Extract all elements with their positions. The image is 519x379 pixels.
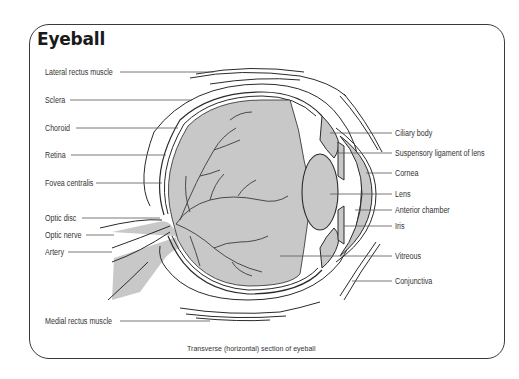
label-fovea-centralis: Fovea centralis: [45, 178, 93, 188]
label-anterior-chamber: Anterior chamber: [395, 205, 450, 215]
vitreous-shape: [168, 100, 309, 286]
ciliary-body-bottom: [320, 228, 339, 268]
ciliary-body-top: [320, 116, 339, 158]
diagram-caption: Transverse (horizontal) section of eyeba…: [187, 344, 315, 353]
label-lateral-rectus-muscle: Lateral rectus muscle: [45, 67, 113, 77]
label-conjunctiva: Conjunctiva: [395, 276, 432, 286]
label-medial-rectus-muscle: Medial rectus muscle: [45, 316, 112, 326]
label-optic-nerve: Optic nerve: [45, 230, 81, 240]
label-choroid: Choroid: [45, 123, 70, 133]
label-cornea: Cornea: [395, 168, 418, 178]
lens-shape: [302, 154, 338, 230]
label-retina: Retina: [45, 150, 66, 160]
label-optic-disc: Optic disc: [45, 213, 76, 223]
label-lens: Lens: [395, 189, 410, 199]
cornea-shape: [340, 136, 372, 256]
iris-top: [338, 142, 344, 180]
label-iris: Iris: [395, 221, 405, 231]
label-sclera: Sclera: [45, 95, 65, 105]
optic-nerve-shape: [112, 221, 180, 300]
label-ciliary-body: Ciliary body: [395, 128, 432, 138]
label-suspensory-ligament: Suspensory ligament of lens: [395, 148, 485, 158]
label-vitreous: Vitreous: [395, 251, 421, 261]
iris-bottom: [338, 206, 344, 244]
label-artery: Artery: [45, 247, 64, 257]
